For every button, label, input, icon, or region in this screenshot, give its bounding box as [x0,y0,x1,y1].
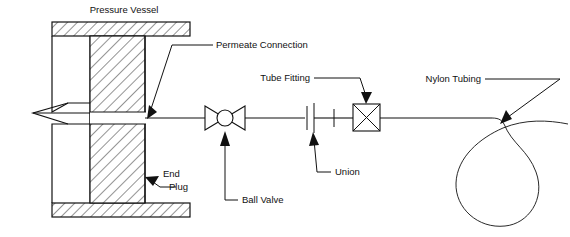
vessel-top-wall [52,22,190,36]
nylon-tubing-label: Nylon Tubing [426,73,481,84]
permeate-bore-clear [90,112,146,124]
permeate-connection-label: Permeate Connection [216,39,308,50]
piping-schematic-diagram: Pressure Vessel Permeate Connection Tube… [0,0,570,237]
ball-valve-label: Ball Valve [242,194,284,205]
schematic-canvas: Pressure Vessel Permeate Connection Tube… [0,0,570,237]
end-plug-label-line2: Plug [169,181,188,192]
tube-fitting-symbol [353,104,380,131]
tube-fitting-label: Tube Fitting [260,72,310,83]
pressure-vessel-label: Pressure Vessel [90,4,159,15]
union-label: Union [335,166,360,177]
ball-valve-symbol [205,106,245,130]
ball-valve-ball [217,110,233,126]
end-plug-label-line1: End [163,168,180,179]
vessel-bottom-wall [52,203,190,217]
